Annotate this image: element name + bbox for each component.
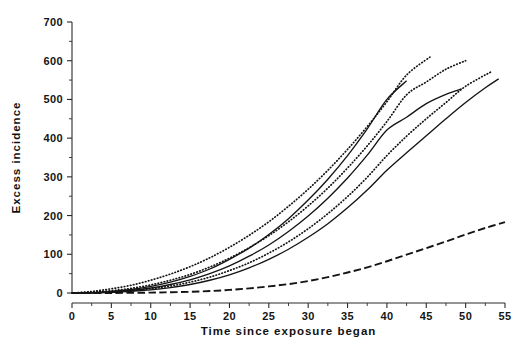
- x-tick-label: 55: [498, 310, 511, 322]
- curve-solid-curve-4: [72, 89, 462, 293]
- x-tick-label: 35: [341, 310, 354, 322]
- y-tick-label: 0: [56, 287, 63, 299]
- y-tick-label: 200: [43, 210, 63, 222]
- curve-dotted-curve-5: [72, 72, 492, 293]
- y-tick-label: 300: [43, 171, 63, 183]
- curve-series-group: [72, 57, 505, 293]
- x-axis: 0510152025303540455055: [69, 303, 512, 322]
- axis-labels-group: Time since exposure beganExcess incidenc…: [10, 102, 376, 337]
- x-tick-label: 30: [302, 310, 315, 322]
- curve-dotted-curve-1: [72, 57, 430, 293]
- x-tick-label: 5: [108, 310, 115, 322]
- y-axis: 0100200300400500600700: [43, 16, 72, 299]
- x-tick-label: 10: [144, 310, 157, 322]
- excess-incidence-line-chart: 0100200300400500600700 05101520253035404…: [0, 0, 531, 342]
- x-tick-label: 45: [420, 310, 433, 322]
- x-axis-title: Time since exposure began: [201, 325, 377, 337]
- y-tick-label: 100: [43, 248, 63, 260]
- x-tick-label: 25: [262, 310, 275, 322]
- y-axis-title: Excess incidence: [10, 102, 22, 214]
- x-tick-label: 40: [380, 310, 393, 322]
- x-tick-label: 20: [223, 310, 236, 322]
- chart-figure: 0100200300400500600700 05101520253035404…: [0, 0, 531, 342]
- curve-dotted-curve-3: [72, 61, 466, 293]
- y-tick-label: 700: [43, 16, 63, 28]
- x-tick-label: 0: [69, 310, 76, 322]
- x-tick-label: 50: [459, 310, 472, 322]
- y-tick-label: 400: [43, 132, 63, 144]
- x-tick-label: 15: [184, 310, 197, 322]
- y-tick-label: 600: [43, 55, 63, 67]
- curve-dashed-curve-7: [72, 222, 505, 293]
- y-tick-label: 500: [43, 93, 63, 105]
